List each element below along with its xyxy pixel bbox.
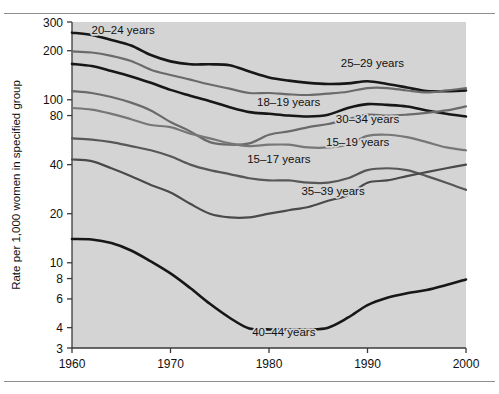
y-axis-title-text: Rate per 1,000 women in specified group <box>10 80 22 290</box>
series-label-1: 20–24 years <box>92 24 156 36</box>
line-chart: 346810204080100200300 196019701980199020… <box>0 0 499 394</box>
plot-background <box>72 22 466 348</box>
y-tick-label: 100 <box>43 93 63 107</box>
y-tick-label: 6 <box>56 292 63 306</box>
x-tick-label: 1960 <box>59 357 86 371</box>
y-tick-label: 80 <box>50 109 64 123</box>
x-tick-label: 1990 <box>354 357 381 371</box>
series-label-8: 40–44 years <box>252 326 316 338</box>
y-tick-label: 20 <box>50 207 64 221</box>
y-tick-label: 200 <box>43 44 63 58</box>
series-label-2: 25–29 years <box>341 57 405 69</box>
y-tick-label: 4 <box>56 321 63 335</box>
series-label-3: 18–19 years <box>257 96 321 108</box>
y-tick-label: 3 <box>56 342 63 356</box>
x-tick-label: 2000 <box>453 357 480 371</box>
y-axis-title: Rate per 1,000 women in specified group <box>10 80 22 290</box>
series-label-5: 15–19 years <box>326 136 390 148</box>
y-tick-label: 40 <box>50 158 64 172</box>
x-tick-label: 1980 <box>256 357 283 371</box>
figure-container: 346810204080100200300 196019701980199020… <box>0 0 499 394</box>
y-tick-label: 8 <box>56 272 63 286</box>
x-tick-label: 1970 <box>157 357 184 371</box>
y-tick-label: 10 <box>50 256 64 270</box>
x-axis-tick-labels: 19601970198019902000 <box>59 357 480 371</box>
y-axis-tick-labels: 346810204080100200300 <box>43 16 63 356</box>
y-tick-label: 300 <box>43 16 63 30</box>
series-label-7: 35–39 years <box>301 185 365 197</box>
series-label-6: 15–17 years <box>247 153 311 165</box>
series-label-4: 30–34 years <box>336 113 400 125</box>
